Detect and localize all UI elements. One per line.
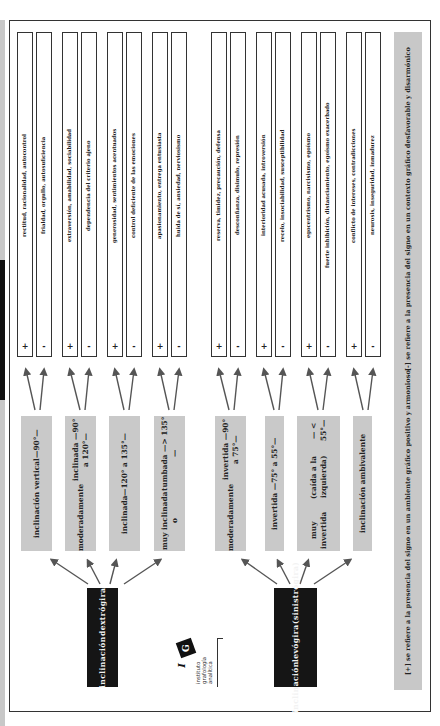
trait-text: extraversión, amabilidad, sociabilidad <box>67 33 72 338</box>
category-ambivalente: inclinación ambivalente <box>353 416 372 551</box>
logo-line: instituto <box>195 662 201 684</box>
trait-text: generosidad, sentimientos acentuados <box>112 33 117 338</box>
trait-text: egocentrismo, narcisismo, egoísmo <box>306 33 311 338</box>
arrow-icon <box>243 560 277 584</box>
minus-sign: - <box>37 338 51 356</box>
arrow-icon <box>300 561 308 584</box>
trait-box-negative: huida de sí, ansiedad, nerviosismo - <box>171 32 187 357</box>
trait-box-negative: desconfianza, disimulo, represión - <box>230 32 246 357</box>
category-label: moderadamente <box>76 484 85 551</box>
trait-text: recelo, insociabilidad, susceptibilidad <box>280 33 285 338</box>
logo-initial: I <box>176 663 187 668</box>
category-invertida: invertida —75° a 55°— <box>265 416 284 551</box>
arrow-icon <box>88 561 100 584</box>
category-label: muy inclinada o <box>160 491 179 551</box>
category-moderadamente-inclinada: moderadamente inclinada —90° a 120°— <box>65 416 96 551</box>
plus-sign: + <box>108 338 122 356</box>
logo-instituto-grafologia-analitica: G I instituto grafología analítica <box>175 638 227 686</box>
category-label: inclinada <box>120 496 129 534</box>
root-label: inclinación <box>98 636 108 688</box>
root-sublabel: levógira <box>291 624 301 662</box>
plus-sign: + <box>212 338 226 356</box>
trait-box-positive: egocentrismo, narcisismo, egoísmo + <box>301 32 317 357</box>
plus-sign: + <box>257 338 271 356</box>
logo-mark-letter: G <box>181 644 191 652</box>
root-inclinacion-dextrogira: inclinación dextrógira <box>87 588 118 687</box>
root-label: inclinación <box>291 662 301 714</box>
trait-box-positive: extraversión, amabilidad, sociabilidad + <box>62 32 78 357</box>
minus-sign: - <box>82 338 96 356</box>
category-angle: —90°— <box>32 429 41 458</box>
trait-box-negative: recelo, insociabilidad, susceptibilidad … <box>275 32 291 357</box>
plus-sign: + <box>302 338 316 356</box>
category-label: muy invertida <box>309 509 328 551</box>
trait-text: control deficiente de las emociones <box>131 33 136 338</box>
minus-sign: - <box>127 338 141 356</box>
category-label: invertida —75° a 55°— <box>270 437 279 530</box>
category-moderadamente-invertida: moderadamente invertida —90° a 75°— <box>215 416 246 551</box>
trait-box-positive: rectitud, racionalidad, autocontrol + <box>17 32 33 357</box>
trait-box-negative: fuerte inhibición, distanciamiento, egoí… <box>320 32 336 357</box>
trait-box-negative: neurosis, inseguridad, inmadurez - <box>365 32 381 357</box>
trait-text: fuerte inhibición, distanciamiento, egoí… <box>325 33 330 338</box>
trait-text: huida de sí, ansiedad, nerviosismo <box>176 33 181 338</box>
plus-sign: + <box>18 338 32 356</box>
trait-text: apasionamiento, entrega entusiasta <box>157 33 162 338</box>
root-sublabel: dextrógira <box>98 587 108 635</box>
minus-sign: - <box>276 338 290 356</box>
arrow-icon <box>52 560 88 584</box>
category-inclinacion-vertical: inclinación vertical —90°— <box>21 416 52 551</box>
category-label: inclinación vertical <box>32 458 41 538</box>
logo-line: grafología <box>201 657 207 684</box>
trait-box-positive: conflicto de intereses, contradicciones … <box>346 32 362 357</box>
category-angle: tumbada —> 135°— <box>160 416 179 491</box>
legend-positive: [+] se refiere a la presencia del signo … <box>404 371 413 676</box>
minus-sign: - <box>231 338 245 356</box>
trait-box-negative: control deficiente de las emociones - <box>126 32 142 357</box>
trait-text: conflicto de intereses, contradicciones <box>351 33 356 338</box>
category-angle: —120° a 135°— <box>120 433 129 496</box>
category-angle: inclinada —90° a 120°— <box>71 416 90 484</box>
category-angle: — < 55°— <box>309 416 328 445</box>
trait-text: dependencia del criterio ajeno <box>86 33 91 338</box>
trait-box-negative: frialdad, orgullo, autosuficiencia - <box>36 32 52 357</box>
logo-mark-icon: G <box>176 638 197 659</box>
category-label: moderadamente <box>226 484 235 551</box>
trait-text: interioridad acusada, introversión <box>261 33 266 338</box>
trait-text: neurosis, inseguridad, inmadurez <box>370 33 375 338</box>
category-muy-inclinada: muy inclinada o tumbada —> 135°— <box>154 416 185 551</box>
arrow-icon <box>110 561 116 584</box>
category-angle: invertida —90° a 75°— <box>221 416 240 484</box>
root-sublabel-alt: (sinistrógira) <box>291 562 301 624</box>
trait-box-positive: interioridad acusada, introversión + <box>256 32 272 357</box>
legend: [+] se refiere a la presencia del signo … <box>394 32 422 690</box>
arrow-icon <box>314 560 350 584</box>
arrow-icon <box>278 561 290 584</box>
trait-text: desconfianza, disimulo, represión <box>235 33 240 338</box>
category-muy-invertida: muy invertida (caída a la izquierda) — <… <box>297 416 340 551</box>
plus-sign: + <box>153 338 167 356</box>
legend-negative: [-] se refiere a la presencia del signo … <box>404 47 413 371</box>
minus-sign: - <box>321 338 335 356</box>
trait-text: frialdad, orgullo, autosuficiencia <box>41 33 46 338</box>
minus-sign: - <box>172 338 186 356</box>
trait-box-negative: dependencia del criterio ajeno - <box>81 32 97 357</box>
logo-line: analítica <box>207 661 213 684</box>
trait-text: reserva, timidez, precaución, defensa <box>216 33 221 338</box>
category-sublabel: (caída a la izquierda) <box>309 445 328 509</box>
trait-box-positive: reserva, timidez, precaución, defensa + <box>211 32 227 357</box>
trait-box-positive: apasionamiento, entrega entusiasta + <box>152 32 168 357</box>
legend-text: [+] se refiere a la presencia del signo … <box>394 32 422 690</box>
category-inclinada: inclinada —120° a 135°— <box>109 416 140 551</box>
minus-sign: - <box>366 338 380 356</box>
plus-sign: + <box>63 338 77 356</box>
trait-text: rectitud, racionalidad, autocontrol <box>22 33 27 338</box>
root-inclinacion-levogira: inclinación levógira (sinistrógira) <box>274 588 317 687</box>
arrow-icon <box>124 560 160 584</box>
logo-text: instituto grafología analítica <box>195 642 214 684</box>
plus-sign: + <box>347 338 361 356</box>
logo-frame <box>217 638 223 687</box>
trait-box-positive: generosidad, sentimientos acentuados + <box>107 32 123 357</box>
category-label: inclinación ambivalente <box>358 434 367 533</box>
